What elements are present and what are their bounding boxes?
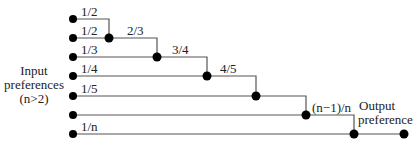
preference-combination-diagram: 1/2 1/2 1/3 1/4 1/5 1/n 2/3 3/4 4/5 (n−1… [0, 0, 420, 150]
input-label-line1: Input [20, 63, 48, 78]
input-node [69, 130, 77, 138]
merge-node [350, 130, 359, 139]
weight-label: 1/n [81, 119, 98, 134]
weight-label: 1/2 [81, 23, 98, 38]
input-node [69, 34, 77, 42]
merge-node [252, 92, 261, 101]
weight-label: 1/2 [81, 4, 98, 19]
merge-weight-label: 4/5 [220, 61, 237, 76]
weight-label: 1/3 [81, 42, 98, 57]
input-node [69, 92, 77, 100]
input-node [69, 53, 77, 61]
merge-node [153, 53, 162, 62]
merge-node [302, 111, 311, 120]
output-label-line2: preference [358, 112, 413, 127]
input-nodes [69, 15, 77, 138]
merge-weight-label: 3/4 [172, 42, 189, 57]
weight-label: 1/4 [81, 61, 98, 76]
connector-lines [73, 19, 404, 134]
input-node [69, 15, 77, 23]
weight-label: 1/5 [81, 81, 98, 96]
merge-node [105, 34, 114, 43]
input-label-line2: preferences [4, 77, 64, 92]
merge-weight-label: 2/3 [127, 23, 144, 38]
output-label-line1: Output [359, 98, 396, 113]
input-node [69, 111, 77, 119]
merge-node [203, 72, 212, 81]
merge-weight-label: (n−1)/n [312, 100, 352, 115]
input-node [69, 72, 77, 80]
input-label-line3: (n>2) [20, 91, 49, 106]
output-node [400, 130, 409, 139]
